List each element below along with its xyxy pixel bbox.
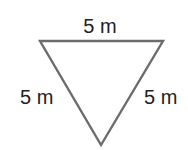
top-side-label: 5 m (83, 15, 116, 37)
triangle-diagram: 5 m 5 m 5 m (0, 0, 188, 150)
left-side-label: 5 m (20, 86, 53, 108)
right-side-label: 5 m (144, 86, 177, 108)
